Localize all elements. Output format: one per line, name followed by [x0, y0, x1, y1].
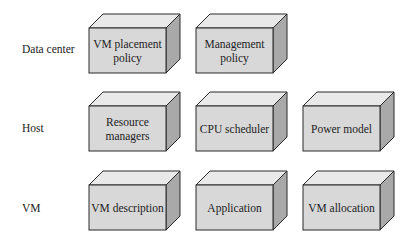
row-label-vm: VM: [22, 201, 41, 215]
box-resource-managers: Resource managers: [89, 92, 181, 152]
box-label: Power model: [303, 106, 380, 151]
box-label: CPU scheduler: [196, 106, 273, 151]
box-label: VM allocation: [303, 185, 380, 230]
box-management-policy: Management policy: [196, 14, 288, 74]
row-label-host: Host: [22, 121, 44, 135]
box-cpu-scheduler: CPU scheduler: [196, 92, 288, 152]
box-label: Resource managers: [89, 106, 166, 151]
box-vm-placement-policy: VM placement policy: [89, 14, 181, 74]
box-vm-allocation: VM allocation: [303, 171, 395, 231]
box-label: Application: [196, 185, 273, 230]
box-application: Application: [196, 171, 288, 231]
box-power-model: Power model: [303, 92, 395, 152]
box-label: VM description: [89, 185, 166, 230]
row-label-data-center: Data center: [22, 42, 75, 56]
box-vm-description: VM description: [89, 171, 181, 231]
box-label: VM placement policy: [89, 28, 166, 73]
box-label: Management policy: [196, 28, 273, 73]
